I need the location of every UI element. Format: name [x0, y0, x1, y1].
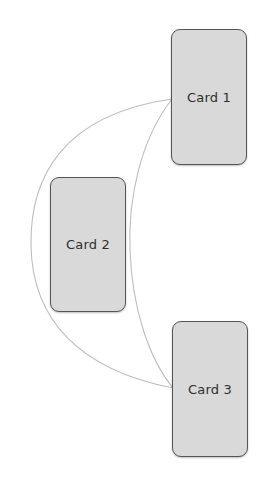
card-1-label: Card 1: [187, 90, 231, 105]
connector-inner-arc: [130, 99, 173, 388]
card-2-label: Card 2: [66, 237, 110, 252]
card-3[interactable]: Card 3: [172, 321, 248, 457]
card-2[interactable]: Card 2: [50, 177, 126, 312]
card-1[interactable]: Card 1: [171, 29, 247, 165]
card-3-label: Card 3: [188, 382, 232, 397]
